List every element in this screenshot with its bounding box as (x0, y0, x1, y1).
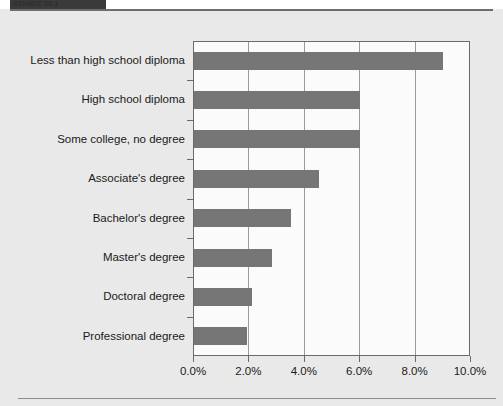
x-axis-tick-label: 2.0% (235, 363, 261, 379)
bar-row: Associate's degree (0, 159, 503, 198)
header-band: EXHIBIT 10.1 (0, 0, 503, 9)
bar-row: Bachelor's degree (0, 199, 503, 238)
y-axis-tick (187, 199, 193, 200)
y-axis-tick (187, 80, 193, 81)
bar (194, 209, 291, 227)
bar (194, 249, 272, 267)
y-axis-tick (187, 120, 193, 121)
x-axis-ticks (0, 356, 503, 362)
chart-figure: EXHIBIT 10.1 Less than high school diplo… (0, 0, 503, 406)
bar (194, 170, 319, 188)
category-label: High school diploma (81, 80, 185, 119)
x-axis-tick (415, 356, 416, 362)
bar-row: Some college, no degree (0, 120, 503, 159)
x-axis-tick-label: 10.0% (454, 363, 487, 379)
header-divider (10, 9, 493, 11)
x-axis-tick-label: 6.0% (346, 363, 372, 379)
x-axis-tick (193, 356, 194, 362)
bar (194, 288, 252, 306)
y-axis-tick (187, 238, 193, 239)
x-axis-tick-label: 4.0% (291, 363, 317, 379)
category-label: Less than high school diploma (30, 41, 185, 80)
category-label: Doctoral degree (103, 277, 185, 316)
bar-row: High school diploma (0, 80, 503, 119)
category-label: Associate's degree (88, 159, 185, 198)
bar (194, 91, 360, 109)
y-axis-tick (187, 317, 193, 318)
x-axis-labels: 0.0%2.0%4.0%6.0%8.0%10.0% (0, 363, 503, 379)
y-axis-tick (187, 159, 193, 160)
bar-row: Doctoral degree (0, 277, 503, 316)
bar-rows: Less than high school diplomaHigh school… (0, 41, 503, 356)
x-axis-tick-label: 0.0% (180, 363, 206, 379)
bar (194, 130, 360, 148)
x-axis-tick-label: 8.0% (401, 363, 427, 379)
category-label: Master's degree (103, 238, 185, 277)
category-label: Bachelor's degree (93, 199, 185, 238)
category-label: Some college, no degree (57, 120, 185, 159)
x-axis-tick (304, 356, 305, 362)
footer-divider (18, 398, 496, 399)
bar (194, 327, 247, 345)
bar (194, 52, 443, 70)
category-label: Professional degree (83, 317, 185, 356)
bar-row: Professional degree (0, 317, 503, 356)
x-axis-tick (470, 356, 471, 362)
exhibit-tab-label: EXHIBIT 10.1 (13, 0, 59, 8)
y-axis-tick (187, 277, 193, 278)
x-axis-tick (359, 356, 360, 362)
bar-row: Less than high school diploma (0, 41, 503, 80)
x-axis-tick (248, 356, 249, 362)
exhibit-tab: EXHIBIT 10.1 (10, 0, 106, 9)
bar-row: Master's degree (0, 238, 503, 277)
